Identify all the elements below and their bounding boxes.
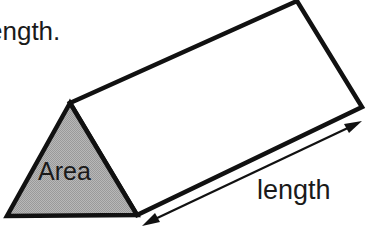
length-label: length bbox=[257, 177, 331, 204]
clipped-text-fragment: ength. bbox=[0, 18, 60, 44]
arrowhead-right-icon bbox=[344, 121, 362, 133]
arrowhead-left-icon bbox=[142, 213, 160, 226]
area-label: Area bbox=[38, 159, 91, 184]
prism-diagram-figure: ength. Area length bbox=[0, 0, 376, 228]
